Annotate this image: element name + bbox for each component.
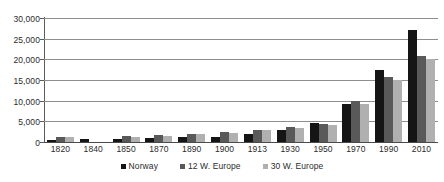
bar	[286, 127, 295, 142]
bar	[145, 138, 154, 142]
y-axis-tick-label: 20,000	[13, 56, 40, 65]
x-axis-tick-label: 1950	[307, 144, 340, 154]
bar	[154, 135, 163, 142]
bar-group	[110, 18, 143, 142]
bar-chart: 30,00025,00020,00015,00010,0005,0000 182…	[0, 0, 444, 182]
x-axis-tick-label: 1820	[44, 144, 77, 154]
bar	[262, 130, 271, 142]
bar	[65, 137, 74, 142]
x-axis-tick-label: 1930	[274, 144, 307, 154]
x-axis-tick-label: 1840	[77, 144, 110, 154]
bar	[295, 128, 304, 142]
legend-swatch-icon	[180, 164, 185, 169]
bar-group	[175, 18, 208, 142]
bar-group	[44, 18, 77, 142]
bar-group	[372, 18, 405, 142]
bar	[426, 59, 435, 142]
x-axis-tick-label: 1850	[110, 144, 143, 154]
legend-label: Norway	[129, 162, 158, 171]
bar	[229, 133, 238, 143]
x-axis-tick-label: 1870	[142, 144, 175, 154]
x-axis-tick-label: 1970	[339, 144, 372, 154]
bar	[375, 70, 384, 142]
gridline	[44, 142, 438, 143]
bar-group	[339, 18, 372, 142]
bar	[342, 104, 351, 142]
bar	[328, 125, 337, 142]
bar	[319, 124, 328, 142]
bar	[187, 134, 196, 142]
bar	[113, 139, 122, 142]
bar	[47, 140, 56, 142]
legend-swatch-icon	[263, 164, 268, 169]
bar	[131, 137, 140, 142]
chart-legend: Norway12 W. Europe30 W. Europe	[0, 162, 444, 171]
legend-label: 12 W. Europe	[188, 162, 241, 171]
x-axis-tick-label: 2010	[405, 144, 438, 154]
bar	[122, 136, 131, 142]
bar	[80, 139, 89, 142]
bar	[163, 136, 172, 142]
bar-group	[307, 18, 340, 142]
legend-swatch-icon	[121, 164, 126, 169]
y-axis-tick-label: 30,000	[13, 15, 40, 24]
x-axis-tick-label: 1890	[175, 144, 208, 154]
legend-item: 30 W. Europe	[263, 162, 324, 171]
x-axis-tick-label: 1913	[241, 144, 274, 154]
legend-label: 30 W. Europe	[271, 162, 324, 171]
y-axis-tick-label: 15,000	[13, 77, 40, 86]
bar	[360, 104, 369, 142]
x-axis-tick-label: 1990	[372, 144, 405, 154]
y-axis-tick-label: 10,000	[13, 98, 40, 107]
bar-group	[142, 18, 175, 142]
bar	[393, 80, 402, 142]
bar-group	[208, 18, 241, 142]
bar	[408, 30, 417, 142]
y-axis-tick-label: 5,000	[18, 118, 40, 127]
legend-item: 12 W. Europe	[180, 162, 241, 171]
bar	[220, 132, 229, 142]
y-axis-labels: 30,00025,00020,00015,00010,0005,0000	[0, 18, 40, 142]
bar	[417, 56, 426, 142]
bar	[277, 130, 286, 142]
x-axis-labels: 1820184018501870189019001913193019501970…	[44, 144, 438, 154]
legend-item: Norway	[121, 162, 158, 171]
bar	[56, 137, 65, 142]
bar-group	[274, 18, 307, 142]
bar-group	[241, 18, 274, 142]
bar	[178, 137, 187, 142]
y-axis-tick-label: 0	[35, 139, 40, 148]
plot-area	[44, 18, 438, 142]
bar	[196, 134, 205, 142]
bar	[310, 123, 319, 142]
bar	[244, 134, 253, 142]
bar	[253, 130, 262, 142]
bar-groups	[44, 18, 438, 142]
x-axis-tick-label: 1900	[208, 144, 241, 154]
bar	[384, 77, 393, 142]
bar	[211, 137, 220, 142]
y-axis-tick-label: 25,000	[13, 36, 40, 45]
bar	[351, 101, 360, 142]
bar-group	[405, 18, 438, 142]
y-axis-tick	[40, 142, 44, 143]
bar-group	[77, 18, 110, 142]
